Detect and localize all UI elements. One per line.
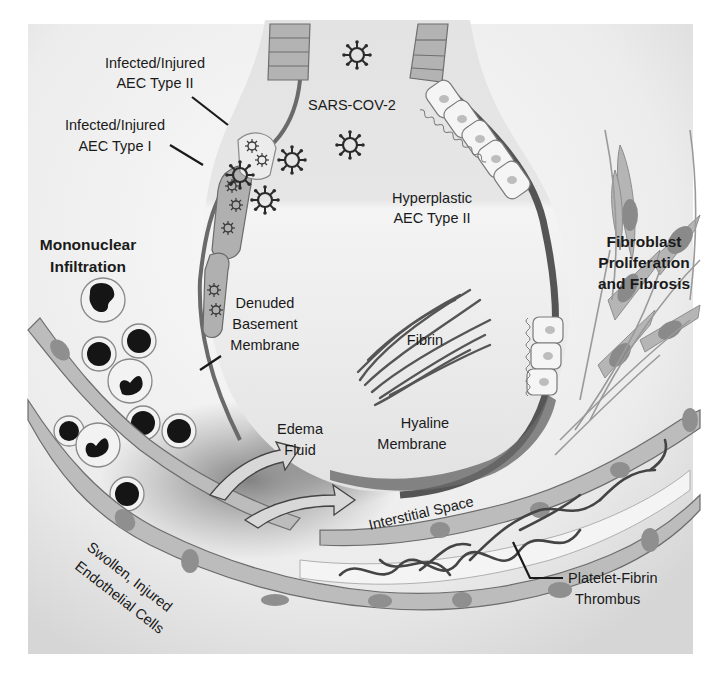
label-edema-line2: Fluid (284, 442, 315, 458)
label-injured-aec1-line1: Infected/Injured (65, 117, 165, 133)
label-injured-aec1-line2: AEC Type I (78, 138, 151, 154)
alveolar-damage-illustration: Infected/Injured AEC Type II Infected/In… (0, 0, 725, 674)
label-hyaline-line2: Membrane (377, 436, 446, 452)
label-edema-line1: Edema (277, 421, 324, 437)
label-sars-cov-2: SARS-COV-2 (308, 97, 396, 113)
label-hyperplastic-line1: Hyperplastic (392, 190, 472, 206)
label-injured-aec2-line1: Infected/Injured (105, 55, 205, 71)
injured-aec-type-2-cells (238, 133, 276, 179)
label-fibroblast-line1: Fibroblast (607, 233, 682, 250)
label-mononuclear-line2: Infiltration (50, 258, 126, 275)
label-fibrin: Fibrin (407, 332, 443, 348)
label-mononuclear-line1: Mononuclear (40, 236, 136, 253)
label-denuded-line1: Denuded (236, 295, 295, 311)
bronchiolar-epithelium-left (268, 24, 310, 80)
label-hyaline-line1: Hyaline (401, 415, 449, 431)
label-fibroblast-line2: Proliferation (598, 254, 689, 271)
label-thrombus-line2: Thrombus (575, 591, 640, 607)
label-denuded-line3: Membrane (230, 337, 299, 353)
label-thrombus-line1: Platelet-Fibrin (568, 570, 657, 586)
label-fibroblast-line3: and Fibrosis (598, 275, 690, 292)
label-injured-aec2-line2: AEC Type II (116, 75, 193, 91)
label-hyperplastic-line2: AEC Type II (393, 210, 470, 226)
label-denuded-line2: Basement (232, 316, 297, 332)
